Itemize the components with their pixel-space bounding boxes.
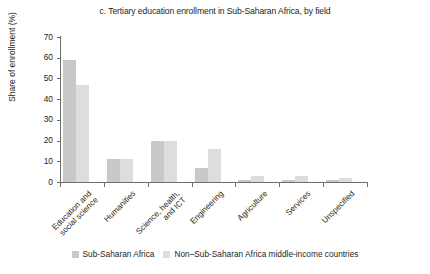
chart-legend: Sub-Saharan AfricaNon–Sub-Saharan Africa…: [0, 249, 430, 259]
x-axis-line: [60, 182, 368, 183]
x-axis-tick-mark: [60, 183, 61, 187]
bar[interactable]: [282, 180, 295, 182]
x-axis-category-label-line: Science, health,: [90, 189, 181, 274]
legend-label: Non–Sub-Saharan Africa middle-income cou…: [174, 249, 358, 259]
legend-item[interactable]: Non–Sub-Saharan Africa middle-income cou…: [163, 249, 358, 259]
x-axis-tick-mark: [148, 183, 149, 187]
y-axis-tick-label: 20: [44, 135, 53, 145]
legend-item[interactable]: Sub-Saharan Africa: [72, 249, 155, 259]
bar[interactable]: [107, 159, 120, 182]
y-axis-tick-label: 30: [44, 114, 53, 124]
y-axis-title: Share of enrollment (%): [7, 0, 17, 132]
x-axis-category-label: Unspecified: [265, 189, 356, 274]
bar[interactable]: [151, 141, 164, 182]
bar[interactable]: [76, 85, 89, 182]
x-axis-category-label-line: Unspecified: [265, 189, 356, 274]
y-axis-tick-label: 50: [44, 73, 53, 83]
x-axis-tick-mark: [104, 183, 105, 187]
x-axis-category-label-line: Services: [222, 189, 313, 274]
x-axis-tick-mark: [279, 183, 280, 187]
bar-group: [192, 37, 236, 182]
x-axis-category-label: Services: [222, 189, 313, 274]
x-axis-category-label: Education andsocial science: [2, 189, 100, 274]
bar[interactable]: [120, 159, 133, 182]
x-axis-tick-mark: [367, 183, 368, 187]
x-axis-category-label: Agriculture: [178, 189, 269, 274]
bar-group: [148, 37, 192, 182]
bar[interactable]: [339, 178, 352, 182]
bar-group: [60, 37, 104, 182]
y-axis-tick-label: 0: [48, 177, 53, 187]
chart-title: c. Tertiary education enrollment in Sub-…: [0, 6, 430, 16]
bar[interactable]: [295, 176, 308, 182]
bar[interactable]: [164, 141, 177, 182]
legend-swatch: [163, 251, 170, 258]
chart-figure: c. Tertiary education enrollment in Sub-…: [0, 0, 430, 274]
bar[interactable]: [63, 60, 76, 182]
bar-group: [323, 37, 367, 182]
x-axis-category-label: Science, health,and ICT: [90, 189, 188, 274]
y-axis-tick: 20: [0, 141, 60, 142]
x-axis-tick-mark: [192, 183, 193, 187]
bar-group: [279, 37, 323, 182]
y-axis-tick: 0: [0, 182, 60, 183]
y-axis-tick-label: 70: [44, 32, 53, 42]
x-axis-tick-mark: [235, 183, 236, 187]
legend-label: Sub-Saharan Africa: [83, 249, 155, 259]
bar[interactable]: [251, 176, 264, 182]
bar-group: [104, 37, 148, 182]
plot-area: [60, 37, 367, 182]
bar[interactable]: [208, 149, 221, 182]
bar[interactable]: [195, 168, 208, 183]
bar[interactable]: [238, 180, 251, 182]
legend-swatch: [72, 251, 79, 258]
bar-group: [235, 37, 279, 182]
y-axis-tick-label: 60: [44, 52, 53, 62]
bar[interactable]: [326, 180, 339, 182]
y-axis-tick-label: 10: [44, 156, 53, 166]
x-axis-tick-mark: [323, 183, 324, 187]
x-axis-category-label-line: Agriculture: [178, 189, 269, 274]
x-axis-category-label-line: Education and: [2, 189, 93, 274]
y-axis-tick-label: 40: [44, 94, 53, 104]
y-axis-tick: 10: [0, 161, 60, 162]
